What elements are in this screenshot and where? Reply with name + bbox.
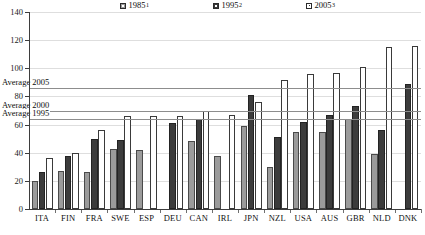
bar-FRA-1985 (84, 172, 91, 209)
y-tick-label: 60 (15, 120, 24, 129)
bar-IRL-2005 (229, 115, 236, 209)
x-tick-label-GBR: GBR (343, 213, 369, 223)
x-tick-label-AUS: AUS (316, 213, 342, 223)
bar-ITA-1985 (32, 181, 39, 209)
legend-label: 1995 (222, 1, 239, 10)
bar-CAN-1995 (196, 119, 203, 209)
x-tick-label-NZL: NZL (264, 213, 290, 223)
bar-DEU-1995 (169, 123, 176, 209)
legend-item-1995: 19952 (213, 1, 242, 10)
y-tick-label: 100 (10, 64, 23, 73)
bar-GBR-1985 (345, 119, 352, 209)
y-tick-label: 20 (15, 176, 24, 185)
legend-footnote-marker: 3 (332, 1, 335, 10)
bar-JPN-1985 (241, 126, 248, 209)
bar-USA-1985 (293, 132, 300, 209)
y-tick-label: 40 (15, 148, 24, 157)
legend-label: 2005 (315, 1, 332, 10)
bar-ESP-1985 (136, 150, 143, 209)
bar-CAN-2005 (203, 111, 210, 210)
bar-DNK-1995 (405, 84, 412, 209)
x-tick-label-JPN: JPN (238, 213, 264, 223)
legend-label: 1985 (129, 1, 146, 10)
bar-DNK-2005 (412, 46, 419, 209)
bar-NLD-1985 (371, 154, 378, 209)
bar-SWE-1985 (110, 149, 117, 210)
bar-SWE-2005 (124, 116, 131, 209)
bar-SWE-1995 (117, 140, 124, 209)
legend-swatch-icon (213, 3, 219, 9)
x-tick-label-ESP: ESP (134, 213, 160, 223)
x-tick-mark (421, 209, 422, 213)
bar-NZL-1995 (274, 137, 281, 209)
bar-JPN-1995 (248, 95, 255, 209)
bar-GBR-1995 (352, 106, 359, 209)
plot-area (29, 12, 421, 209)
reference-line-average-2005 (29, 88, 421, 89)
bar-chart: 198511995220053 020406080100120140 Avera… (0, 0, 425, 235)
y-tick-label: 0 (19, 205, 23, 214)
bar-ITA-2005 (46, 158, 53, 209)
bar-AUS-1985 (319, 132, 326, 209)
legend-footnote-marker: 1 (146, 1, 149, 10)
y-tick-label: 140 (10, 8, 23, 17)
bar-FRA-1995 (91, 139, 98, 209)
x-tick-label-DNK: DNK (395, 213, 421, 223)
bar-FRA-2005 (98, 130, 105, 209)
x-tick-label-IRL: IRL (212, 213, 238, 223)
reference-line-average-2000 (29, 111, 421, 112)
bar-NLD-1995 (378, 130, 385, 209)
bar-DEU-2005 (177, 116, 184, 209)
y-tick-label: 120 (10, 36, 23, 45)
bar-AUS-2005 (333, 73, 340, 209)
bar-NLD-2005 (386, 47, 393, 209)
legend-item-2005: 20053 (306, 1, 335, 10)
bar-NZL-1985 (267, 167, 274, 209)
reference-line-label: Average 1995 (1, 109, 50, 118)
x-tick-label-SWE: SWE (107, 213, 133, 223)
x-tick-label-USA: USA (290, 213, 316, 223)
bar-CAN-1985 (188, 141, 195, 209)
bar-FIN-1985 (58, 171, 65, 209)
legend-swatch-icon (120, 3, 126, 9)
bar-NZL-2005 (281, 80, 288, 209)
y-axis-line (29, 12, 30, 209)
bar-USA-1995 (300, 122, 307, 209)
legend-swatch-icon (306, 3, 312, 9)
x-tick-label-DEU: DEU (160, 213, 186, 223)
reference-line-label: Average 2005 (1, 78, 50, 87)
bar-USA-2005 (307, 74, 314, 209)
x-tick-label-ITA: ITA (29, 213, 55, 223)
legend-item-1985: 19851 (120, 1, 149, 10)
bar-IRL-1985 (214, 156, 221, 209)
legend-footnote-marker: 2 (239, 1, 242, 10)
bar-AUS-1995 (326, 115, 333, 209)
bar-FIN-2005 (72, 153, 79, 209)
x-tick-label-FRA: FRA (81, 213, 107, 223)
x-tick-label-FIN: FIN (55, 213, 81, 223)
bar-ITA-1995 (39, 172, 46, 209)
x-axis-line (29, 209, 421, 210)
x-tick-label-NLD: NLD (369, 213, 395, 223)
x-tick-label-CAN: CAN (186, 213, 212, 223)
reference-line-average-1995 (29, 119, 421, 120)
bar-ESP-2005 (150, 116, 157, 209)
bar-FIN-1995 (65, 156, 72, 209)
